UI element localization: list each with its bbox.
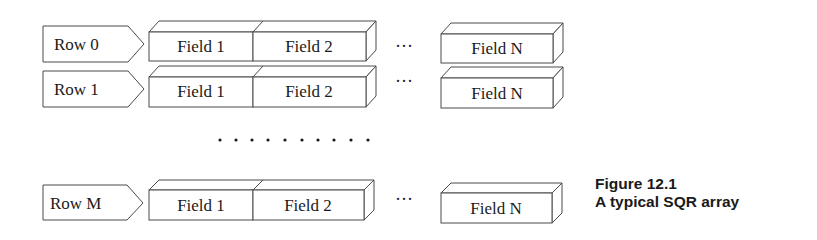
- figure-caption: Figure 12.1 A typical SQR array: [595, 175, 739, 211]
- block-top-face: [149, 66, 376, 77]
- row-1-field-n: Field N: [471, 84, 522, 103]
- fieldn-top-face: [441, 23, 563, 34]
- vertical-ellipsis-dots: [218, 138, 369, 141]
- row-0-field-n: Field N: [471, 39, 522, 58]
- row-m-field-2: Field 2: [284, 196, 332, 215]
- row-1-field-2: Field 2: [285, 82, 333, 101]
- row-1-field-1: Field 1: [177, 82, 225, 101]
- row-m-field-1: Field 1: [177, 196, 225, 215]
- row-m-field-n: Field N: [470, 199, 521, 218]
- figure-title: A typical SQR array: [595, 193, 739, 211]
- row-0-ellipsis: ···: [395, 36, 413, 56]
- row-0-label: Row 0: [54, 35, 99, 54]
- fieldn-top-face: [441, 67, 563, 78]
- block-top-face: [149, 21, 376, 32]
- row-m-ellipsis: ···: [395, 189, 413, 209]
- row-m-label: Row M: [50, 194, 101, 213]
- row-1-ellipsis: ···: [395, 71, 413, 91]
- row-0-field-2: Field 2: [285, 37, 333, 56]
- row-0-field-1: Field 1: [177, 37, 225, 56]
- row-1-label: Row 1: [54, 80, 99, 99]
- figure-number: Figure 12.1: [595, 175, 739, 193]
- fieldn-top-face: [441, 183, 562, 193]
